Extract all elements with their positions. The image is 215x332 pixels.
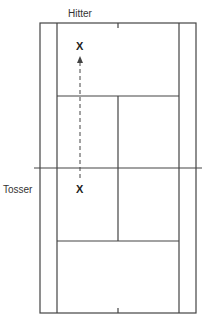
- hitter-x-marker: X: [76, 40, 83, 52]
- tosser-x-marker: X: [76, 183, 83, 195]
- tennis-court-diagram: [0, 0, 215, 332]
- arrowhead-icon: [77, 56, 83, 63]
